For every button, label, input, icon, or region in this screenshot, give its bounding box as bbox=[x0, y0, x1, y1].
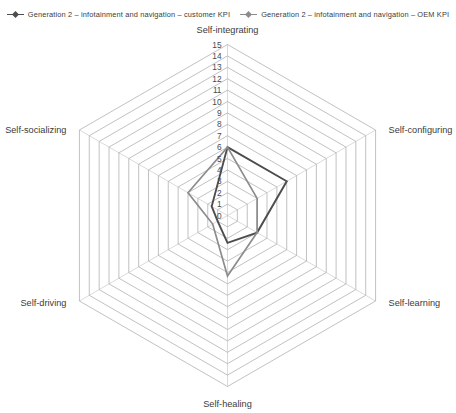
axis-spoke bbox=[228, 216, 376, 302]
radial-tick-label: 14 bbox=[212, 51, 222, 61]
radial-tick-label: 1 bbox=[217, 199, 222, 209]
radial-tick-label: 9 bbox=[217, 108, 222, 118]
axis-category-label: Self-integrating bbox=[197, 25, 259, 35]
radar-plot-area: 0123456789101112131415 Self-integratingS… bbox=[0, 0, 456, 413]
radial-tick-label: 12 bbox=[212, 74, 222, 84]
radial-tick-label: 3 bbox=[217, 176, 222, 186]
axis-category-label: Self-configuring bbox=[389, 125, 453, 135]
axis-spoke bbox=[228, 130, 376, 216]
axis-category-label: Self-driving bbox=[20, 298, 66, 308]
radial-tick-label: 7 bbox=[217, 131, 222, 141]
radar-tick-labels: 0123456789101112131415 bbox=[212, 40, 222, 221]
radial-tick-label: 11 bbox=[213, 85, 222, 95]
radial-tick-label: 4 bbox=[217, 165, 222, 175]
axis-category-label: Self-socializing bbox=[5, 125, 66, 135]
radial-tick-label: 2 bbox=[217, 188, 222, 198]
radial-tick-label: 15 bbox=[212, 40, 222, 50]
radial-tick-label: 8 bbox=[217, 119, 222, 129]
axis-category-label: Self-learning bbox=[389, 298, 441, 308]
axis-spoke bbox=[79, 216, 227, 302]
radial-tick-label: 0 bbox=[217, 211, 222, 221]
radar-spokes bbox=[79, 45, 375, 387]
radial-tick-label: 10 bbox=[212, 97, 222, 107]
radial-tick-label: 6 bbox=[217, 142, 222, 152]
radial-tick-label: 5 bbox=[217, 154, 222, 164]
radar-chart-figure: Generation 2 – infotainment and navigati… bbox=[0, 0, 456, 413]
radial-tick-label: 13 bbox=[212, 62, 222, 72]
axis-category-label: Self-healing bbox=[203, 399, 252, 409]
